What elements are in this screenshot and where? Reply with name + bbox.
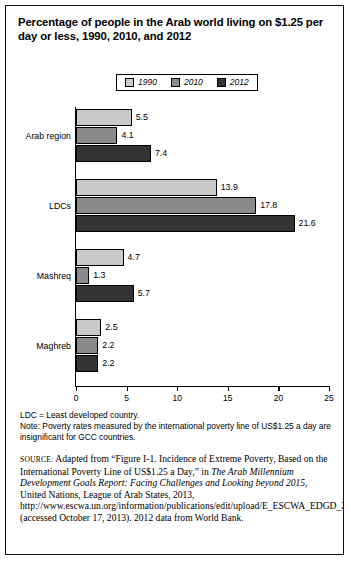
bar-mashreq-2010 xyxy=(76,267,89,284)
bar-ldcs-1990 xyxy=(76,179,217,196)
x-axis-tick-label-5: 5 xyxy=(124,393,129,403)
x-axis-tick-label-20: 20 xyxy=(274,393,283,403)
x-axis-line xyxy=(75,386,329,387)
bar-maghreb-1990 xyxy=(76,319,101,336)
note-ldc: LDC = Least developed country. xyxy=(20,410,332,421)
x-axis-tick-label-15: 15 xyxy=(223,393,232,403)
note-poverty-rates: Note: Poverty rates measured by the inte… xyxy=(20,421,332,443)
x-axis-tick-20 xyxy=(278,386,279,391)
bar-value-arab-region-1990: 5.5 xyxy=(136,112,148,122)
x-axis-tick-label-0: 0 xyxy=(74,393,79,403)
bar-value-ldcs-2012: 21.6 xyxy=(299,218,316,228)
x-axis-tick-0 xyxy=(76,386,77,391)
bar-value-maghreb-2012: 2.2 xyxy=(102,358,114,368)
x-axis-tick-label-25: 25 xyxy=(324,393,333,403)
figure-panel: Percentage of people in the Arab world l… xyxy=(5,5,344,555)
x-axis-tick-25 xyxy=(329,386,330,391)
bar-value-mashreq-2012: 5.7 xyxy=(138,288,150,298)
bar-value-arab-region-2010: 4.1 xyxy=(121,130,133,140)
category-label-arab-region: Arab region xyxy=(26,131,71,141)
category-label-maghreb: Maghreb xyxy=(36,341,71,351)
bar-value-ldcs-1990: 13.9 xyxy=(221,182,238,192)
bar-value-mashreq-2010: 1.3 xyxy=(93,270,105,280)
bar-value-mashreq-1990: 4.7 xyxy=(128,252,140,262)
bar-ldcs-2012 xyxy=(76,215,295,232)
bar-maghreb-2010 xyxy=(76,337,98,354)
bar-value-arab-region-2012: 7.4 xyxy=(155,148,167,158)
x-axis-tick-label-10: 10 xyxy=(172,393,181,403)
bar-arab-region-2012 xyxy=(76,145,151,162)
x-axis-tick-10 xyxy=(177,386,178,391)
bar-maghreb-2012 xyxy=(76,355,98,372)
bar-value-ldcs-2010: 17.8 xyxy=(260,200,277,210)
x-axis-tick-5 xyxy=(127,386,128,391)
bar-value-maghreb-1990: 2.5 xyxy=(105,322,117,332)
bar-arab-region-1990 xyxy=(76,109,132,126)
bar-arab-region-2010 xyxy=(76,127,117,144)
bar-mashreq-1990 xyxy=(76,249,124,266)
chart-source: SOURCE: Adapted from “Figure I-1. Incide… xyxy=(20,453,332,524)
bar-mashreq-2012 xyxy=(76,285,134,302)
category-label-ldcs: LDCs xyxy=(49,201,71,211)
category-label-mashreq: Mashreq xyxy=(37,271,71,281)
bar-ldcs-2010 xyxy=(76,197,256,214)
x-axis-tick-15 xyxy=(228,386,229,391)
chart-notes: LDC = Least developed country. Note: Pov… xyxy=(20,410,332,444)
source-label: SOURCE: xyxy=(20,455,53,464)
bar-value-maghreb-2010: 2.2 xyxy=(102,340,114,350)
